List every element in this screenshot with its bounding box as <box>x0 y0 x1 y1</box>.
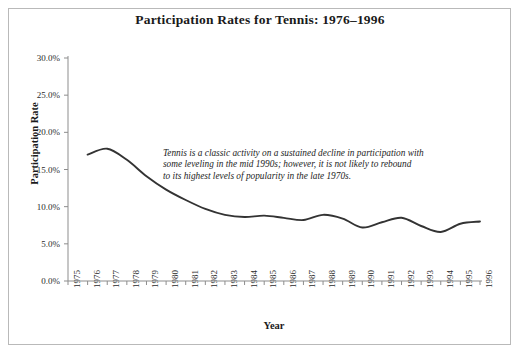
chart-figure: Participation Rates for Tennis: 1976–199… <box>0 0 520 354</box>
chart-annotation: Tennis is a classic activity on a sustai… <box>163 148 463 182</box>
annotation-line-1: Tennis is a classic activity on a sustai… <box>163 148 463 159</box>
annotation-line-3: to its highest levels of popularity in t… <box>163 171 463 182</box>
annotation-line-2: some leveling in the mid 1990s; however,… <box>163 159 463 170</box>
